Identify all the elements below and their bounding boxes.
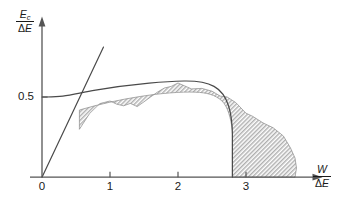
straight-line xyxy=(42,47,104,177)
chart-figure: Ec ΔE W ΔE 0.5 0 1 2 3 xyxy=(0,0,343,201)
x-axis-label: W ΔE xyxy=(313,164,331,190)
plot-canvas xyxy=(0,0,343,201)
y-tick-label-05: 0.5 xyxy=(8,91,34,103)
shaded-region-main xyxy=(79,83,296,177)
x-tick-label-1: 1 xyxy=(101,181,119,193)
x-axis-label-numerator: W xyxy=(313,164,331,176)
plateau-curve xyxy=(42,81,232,177)
x-axis-label-denominator: ΔE xyxy=(313,176,331,189)
x-tick-label-0: 0 xyxy=(33,181,51,193)
y-axis-label-denominator: ΔE xyxy=(16,21,34,34)
y-axis-arrowhead xyxy=(39,17,46,27)
x-tick-label-2: 2 xyxy=(169,181,187,193)
y-axis-label-numerator: Ec xyxy=(16,9,34,21)
x-tick-label-3: 3 xyxy=(237,181,255,193)
y-axis-label: Ec ΔE xyxy=(16,9,34,35)
